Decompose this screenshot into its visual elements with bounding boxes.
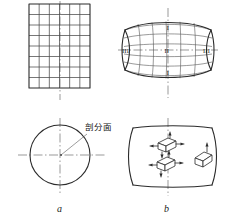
technical-figure: III II III I I 剖分面 <box>0 0 225 224</box>
stress-cube-right <box>195 143 212 167</box>
roman-label-left: III <box>122 47 129 54</box>
figure-canvas: III II III I I 剖分面 <box>0 0 225 224</box>
roman-label-center: II <box>165 47 170 54</box>
roman-label-bottom: I <box>167 69 169 76</box>
panel-deformed-section <box>129 118 217 196</box>
panel-circular-section: 剖分面 <box>18 118 112 193</box>
roman-label-right: III <box>203 47 210 54</box>
annotation-parting-plane: 剖分面 <box>85 122 112 132</box>
annotation-leader-dot <box>60 154 62 156</box>
panel-undeformed-grid <box>29 1 90 100</box>
caption-b: b <box>164 203 169 214</box>
panel-deformed-grid: III II III I I <box>118 8 218 98</box>
caption-a: a <box>57 203 62 214</box>
stress-cube-upper <box>150 132 184 158</box>
stress-cube-lower <box>149 151 183 177</box>
annotation-leader-line <box>61 134 87 155</box>
roman-label-top: I <box>167 24 169 31</box>
